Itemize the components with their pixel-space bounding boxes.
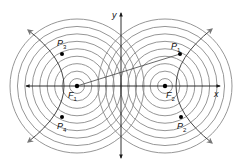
hyperbola-diagram: x y F1 F2 P1 P2 P3 P4 — [0, 0, 239, 166]
y-axis-label: y — [111, 10, 117, 20]
point-p3-label: P3 — [57, 38, 67, 50]
point-p3 — [60, 52, 64, 56]
focus-f1-label: F1 — [68, 90, 78, 102]
focus-f2-label: F2 — [166, 90, 176, 102]
point-p4 — [60, 115, 64, 119]
point-p4-label: P4 — [57, 121, 67, 133]
focus-f2-point — [163, 84, 167, 88]
point-p2 — [179, 115, 183, 119]
x-axis-label: x — [213, 89, 219, 99]
focus-f1-point — [75, 84, 79, 88]
point-p1-label: P1 — [171, 41, 181, 53]
point-p2-label: P2 — [177, 121, 187, 133]
